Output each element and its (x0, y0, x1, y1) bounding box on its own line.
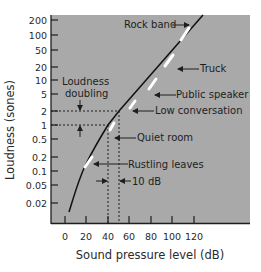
plot-area (51, 15, 250, 223)
y-tick-label: 0.1 (32, 166, 47, 177)
label-quiet-room: Quiet room (137, 132, 193, 143)
x-tick-label: 20 (80, 231, 92, 242)
loudness-chart: 200 100 50 20 10 5 2 1 0.5 0.2 0.1 0.05 … (0, 0, 261, 272)
y-tick-label: 5 (41, 89, 47, 100)
y-tick-label: 2 (41, 106, 47, 117)
y-tick-label: 100 (29, 30, 47, 41)
x-tick-label: 0 (62, 231, 68, 242)
label-truck: Truck (199, 63, 227, 74)
x-tick-label: 100 (163, 231, 181, 242)
y-tick-label: 10 (35, 75, 47, 86)
label-public-speaker: Public speaker (176, 89, 249, 100)
x-tick-label: 120 (185, 231, 203, 242)
y-axis-title: Loudness (sones) (3, 80, 17, 180)
label-10-db: 10 dB (132, 176, 161, 187)
y-tick-label: 0.2 (32, 152, 47, 163)
label-loudness-doubling-1: Loudness (62, 76, 109, 87)
label-low-conversation: Low conversation (155, 105, 243, 116)
x-axis-title: Sound pressure level (dB) (76, 248, 224, 262)
x-tick-label: 80 (145, 231, 157, 242)
label-loudness-doubling-2: doubling (65, 88, 108, 99)
x-tick-labels: 0 20 40 60 80 100 120 (62, 231, 203, 242)
y-tick-label: 1 (41, 120, 47, 131)
y-tick-label: 0.05 (26, 180, 47, 191)
label-rock-band: Rock band (124, 19, 176, 30)
y-tick-labels: 200 100 50 20 10 5 2 1 0.5 0.2 0.1 0.05 … (26, 15, 47, 209)
y-tick-label: 50 (35, 45, 47, 56)
x-tick-label: 60 (123, 231, 135, 242)
label-rustling-leaves: Rustling leaves (128, 159, 204, 170)
x-tick-label: 40 (102, 231, 114, 242)
y-tick-label: 20 (35, 62, 47, 73)
y-tick-label: 0.02 (26, 198, 47, 209)
y-tick-label: 0.5 (32, 134, 47, 145)
y-tick-label: 200 (29, 15, 47, 26)
